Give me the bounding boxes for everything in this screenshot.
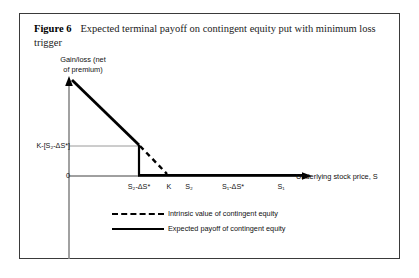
legend-label-intrinsic: Intrinsic value of contingent equity [168,209,278,218]
figure-frame: Figure 6 Expected terminal payoff on con… [19,13,400,259]
x-tick-label-2: K [167,182,172,191]
x-axis-title: Underlying stock price, S [296,172,378,182]
x-tick-label-1: S₂-ΔS* [128,182,150,191]
chart-plot-area: Gain/loss (net of premium) Underlying st… [20,14,401,260]
x-tick-label-3: S₂ [185,182,193,191]
legend-item-intrinsic: Intrinsic value of contingent equity [112,206,362,221]
dashed-line-swatch-icon [112,209,164,219]
y-tick-label-zero: 0 [28,171,70,180]
y-axis-title-line2: of premium) [63,65,102,74]
chart-legend: Intrinsic value of contingent equity Exp… [112,206,362,236]
intrinsic-value-line [140,146,167,174]
x-tick-label-4: S₁-ΔS* [222,182,244,191]
expected-payoff-slope [72,80,139,145]
y-tick-label-strike: K-[S₂-ΔS*] [28,141,70,150]
legend-item-expected: Expected payoff of contingent equity [112,221,362,236]
legend-label-expected: Expected payoff of contingent equity [168,224,286,233]
y-axis-title-line1: Gain/loss (net [60,55,106,64]
y-axis-title: Gain/loss (net of premium) [47,55,119,74]
x-tick-label-5: S₁ [277,182,284,191]
solid-line-swatch-icon [112,224,164,234]
